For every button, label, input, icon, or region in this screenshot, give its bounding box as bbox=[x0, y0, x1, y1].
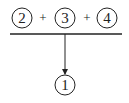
svg-text:2: 2 bbox=[18, 10, 26, 26]
plus-operator: + bbox=[39, 10, 46, 25]
svg-text:4: 4 bbox=[103, 10, 111, 26]
plus-operator: + bbox=[83, 10, 90, 25]
svg-text:1: 1 bbox=[61, 77, 69, 93]
input-node-4: 4 bbox=[97, 8, 117, 28]
sum-diagram: 2 + 3 + 4 1 bbox=[0, 0, 129, 103]
input-node-3: 3 bbox=[55, 8, 75, 28]
svg-text:3: 3 bbox=[61, 10, 69, 26]
output-node-1: 1 bbox=[55, 75, 75, 95]
input-node-2: 2 bbox=[12, 8, 32, 28]
